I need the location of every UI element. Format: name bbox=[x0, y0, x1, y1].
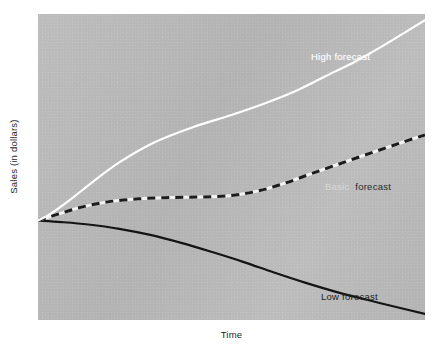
basic-forecast-label: Basic forecast bbox=[325, 182, 391, 192]
plot-area: High forecast Basic forecast Low forecas… bbox=[38, 14, 425, 320]
low-forecast-label: Low forecast bbox=[321, 292, 378, 302]
basic-forecast-line-backing bbox=[38, 135, 425, 221]
y-axis-title: Sales (in dollars) bbox=[8, 97, 19, 217]
series-basic-forecast bbox=[38, 135, 425, 221]
x-axis-title: Time bbox=[38, 329, 425, 340]
basic-forecast-label-word2: forecast bbox=[355, 181, 391, 192]
high-forecast-label: High forecast bbox=[311, 52, 370, 62]
basic-forecast-label-word1: Basic bbox=[325, 181, 349, 192]
forecast-chart: High forecast Basic forecast Low forecas… bbox=[0, 0, 441, 356]
basic-forecast-line bbox=[38, 135, 425, 221]
